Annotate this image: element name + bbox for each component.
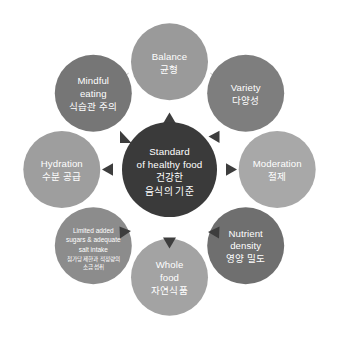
node-mindful-eating-label-ko: 식습관 주의 [69, 101, 117, 112]
node-moderation[interactable]: Moderation 절제 [239, 131, 316, 208]
node-limited-added-sugars-label-en-1: Limited added [73, 227, 114, 234]
node-balance-label-en: Balance [152, 51, 187, 62]
center-node[interactable]: Standard of healthy food 건강한 음식의 기준 [122, 122, 217, 217]
node-whole-food[interactable]: Whole food 자연식품 [131, 239, 208, 316]
node-limited-added-sugars-label-ko-1: 첨가당 제한과 적정량의 [67, 255, 120, 263]
node-limited-added-sugars-label-en-3: salt intake [79, 246, 109, 253]
node-nutrient-density-label-en-1: Nutrient [228, 228, 263, 239]
node-balance-circle[interactable] [131, 23, 208, 100]
node-hydration-label-ko: 수분 공급 [42, 171, 81, 182]
arrow-right-icon [226, 163, 237, 175]
node-nutrient-density-label-ko: 영양 밀도 [226, 253, 265, 264]
node-moderation-circle[interactable] [239, 131, 316, 208]
node-hydration[interactable]: Hydration 수분 공급 [23, 131, 100, 208]
center-label-ko-2: 음식의 기준 [145, 186, 193, 197]
node-hydration-circle[interactable] [23, 131, 100, 208]
node-whole-food-label-en-1: Whole [156, 259, 184, 270]
node-whole-food-label-en-2: food [160, 272, 179, 283]
node-nutrient-density-label-en-2: density [230, 240, 261, 251]
node-variety-label-ko: 다양성 [232, 95, 259, 106]
diagram-canvas: Balance 균형 Variety 다양성 Moderation 절제 Nut… [0, 0, 339, 362]
node-mindful-eating[interactable]: Mindful eating 식습관 주의 [55, 55, 132, 132]
node-variety-circle[interactable] [207, 55, 284, 132]
node-balance[interactable]: Balance 균형 [131, 23, 208, 100]
arrow-upper-right-icon [209, 131, 220, 143]
node-limited-added-sugars-label-en-2: sugars & adequate [66, 236, 121, 244]
node-mindful-eating-label-en-1: Mindful [77, 75, 109, 86]
node-variety[interactable]: Variety 다양성 [207, 55, 284, 132]
node-moderation-label-ko: 절제 [268, 171, 286, 182]
node-mindful-eating-label-en-2: eating [80, 88, 107, 99]
node-hydration-label-en: Hydration [41, 158, 83, 169]
node-limited-added-sugars-label-ko-2: 소금 섭취 [83, 263, 105, 271]
center-label-en-1: Standard [149, 146, 190, 157]
arrow-left-icon [102, 163, 113, 175]
node-limited-added-sugars[interactable]: Limited added sugars & adequate salt int… [55, 207, 132, 284]
arrow-upper-left-icon [120, 131, 132, 143]
arrow-up-icon [163, 113, 176, 124]
center-label-ko-1: 건강한 [156, 172, 183, 183]
node-variety-label-en: Variety [231, 82, 261, 93]
radial-cycle-diagram: Balance 균형 Variety 다양성 Moderation 절제 Nut… [0, 0, 339, 362]
node-moderation-label-en: Moderation [253, 158, 302, 169]
node-balance-label-ko: 균형 [160, 64, 178, 75]
node-nutrient-density[interactable]: Nutrient density 영양 밀도 [207, 207, 284, 284]
node-whole-food-label-ko: 자연식품 [151, 285, 187, 296]
center-label-en-2: of healthy food [137, 159, 203, 170]
